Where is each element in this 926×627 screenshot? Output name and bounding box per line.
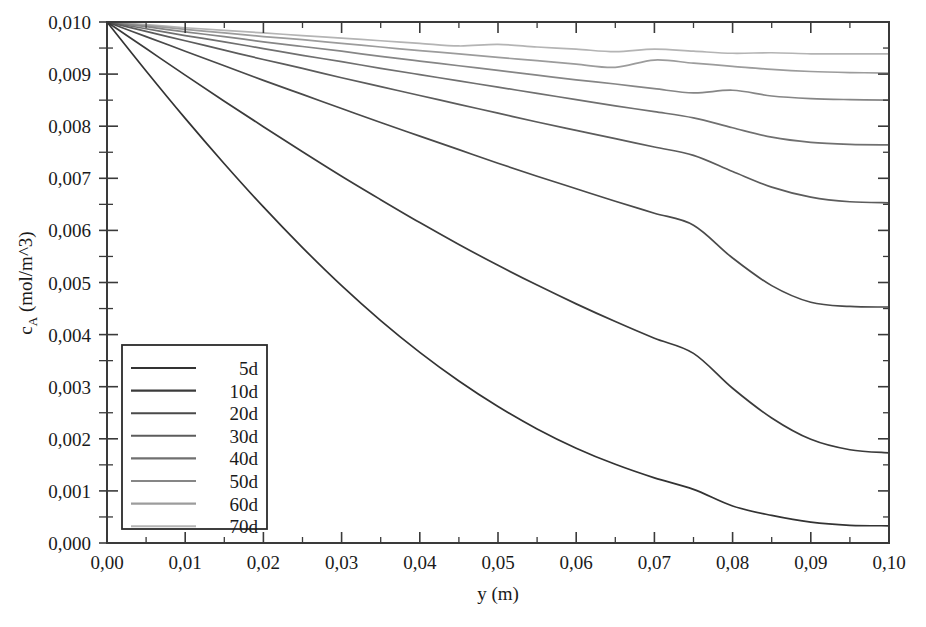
legend-label-60d[interactable]: 60d (230, 494, 259, 515)
x-axis-tick-labels: 0,000,010,020,030,040,050,060,070,080,09… (90, 552, 905, 573)
x-tick-label: 0,06 (560, 552, 593, 573)
y-tick-label: 0,008 (48, 116, 91, 137)
y-tick-label: 0,005 (48, 273, 91, 294)
x-tick-label: 0,05 (481, 552, 514, 573)
x-tick-label: 0,03 (325, 552, 358, 573)
y-title-base: c (15, 326, 36, 334)
y-tick-label: 0,007 (48, 168, 91, 189)
legend-label-40d[interactable]: 40d (230, 448, 259, 469)
legend[interactable]: 5d10d20d30d40d50d60d70d (122, 345, 267, 537)
x-tick-label: 0,09 (794, 552, 827, 573)
x-tick-label: 0,08 (716, 552, 749, 573)
x-tick-label: 0,10 (872, 552, 905, 573)
y-tick-label: 0,000 (48, 533, 91, 554)
x-tick-label: 0,00 (90, 552, 123, 573)
x-tick-label: 0,04 (403, 552, 437, 573)
y-tick-label: 0,010 (48, 12, 91, 33)
legend-label-50d[interactable]: 50d (230, 471, 259, 492)
x-axis-title: y (m) (477, 583, 519, 605)
y-title-rest: (mol/m^3) (15, 231, 37, 316)
x-tick-label: 0,07 (638, 552, 671, 573)
legend-label-70d[interactable]: 70d (230, 516, 259, 537)
legend-label-5d[interactable]: 5d (239, 358, 259, 379)
legend-label-30d[interactable]: 30d (230, 426, 259, 447)
y-tick-label: 0,009 (48, 64, 91, 85)
chart-figure: 0,000,010,020,030,040,050,060,070,080,09… (0, 0, 926, 627)
y-tick-label: 0,006 (48, 220, 91, 241)
y-axis-tick-labels: 0,0000,0010,0020,0030,0040,0050,0060,007… (48, 12, 91, 554)
legend-label-10d[interactable]: 10d (230, 381, 259, 402)
concentration-profile-chart: 0,000,010,020,030,040,050,060,070,080,09… (0, 0, 926, 627)
y-tick-label: 0,002 (48, 429, 91, 450)
x-tick-label: 0,01 (169, 552, 202, 573)
y-tick-label: 0,001 (48, 481, 91, 502)
y-axis-title: cA (mol/m^3) (15, 231, 40, 334)
legend-label-20d[interactable]: 20d (230, 403, 259, 424)
x-tick-label: 0,02 (247, 552, 280, 573)
y-tick-label: 0,004 (48, 325, 91, 346)
y-tick-label: 0,003 (48, 377, 91, 398)
